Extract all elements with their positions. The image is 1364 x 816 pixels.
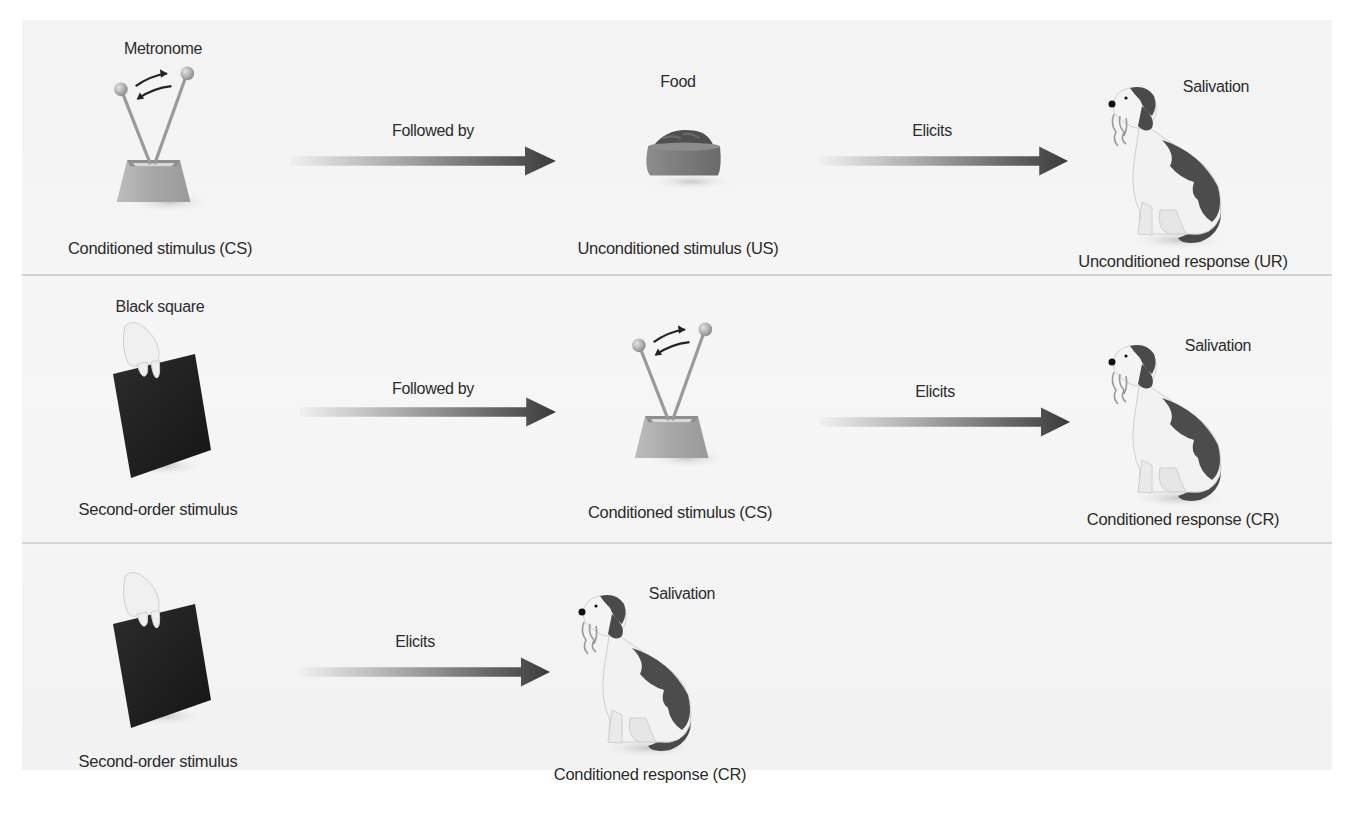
metronome-icon [622, 318, 738, 478]
gradient-right-arrow-icon [300, 396, 558, 428]
gradient-right-arrow-icon [820, 406, 1072, 438]
gradient-right-arrow-icon [300, 656, 552, 688]
cr-label-2: Conditioned response (CR) [554, 765, 746, 784]
second-order-stimulus-label-1: Second-order stimulus [79, 500, 238, 519]
metronome-icon [104, 62, 220, 222]
metronome-label: Metronome [124, 40, 202, 58]
elicits-label-2: Elicits [915, 383, 955, 401]
hand-holding-black-square-icon [92, 318, 214, 488]
elicits-label-1: Elicits [912, 122, 952, 140]
cs-label: Conditioned stimulus (CS) [68, 239, 252, 258]
food-bowl-icon [628, 122, 738, 194]
elicits-label-3: Elicits [395, 633, 435, 651]
followed-by-label: Followed by [392, 122, 474, 140]
cs-label-2: Conditioned stimulus (CS) [588, 503, 772, 522]
hand-holding-black-square-icon [92, 568, 214, 738]
gradient-right-arrow-icon [820, 145, 1070, 177]
salivating-dog-icon [1100, 340, 1230, 510]
us-label: Unconditioned stimulus (US) [578, 239, 779, 258]
salivating-dog-icon [570, 590, 700, 760]
ur-label: Unconditioned response (UR) [1078, 252, 1287, 271]
cr-label-1: Conditioned response (CR) [1087, 510, 1279, 529]
black-square-label: Black square [116, 298, 205, 316]
food-label: Food [660, 73, 695, 91]
salivating-dog-icon [1100, 82, 1230, 252]
row-divider-2 [22, 542, 1332, 544]
row-divider-1 [22, 274, 1332, 276]
gradient-right-arrow-icon [290, 145, 558, 177]
second-order-stimulus-label-2: Second-order stimulus [79, 752, 238, 771]
